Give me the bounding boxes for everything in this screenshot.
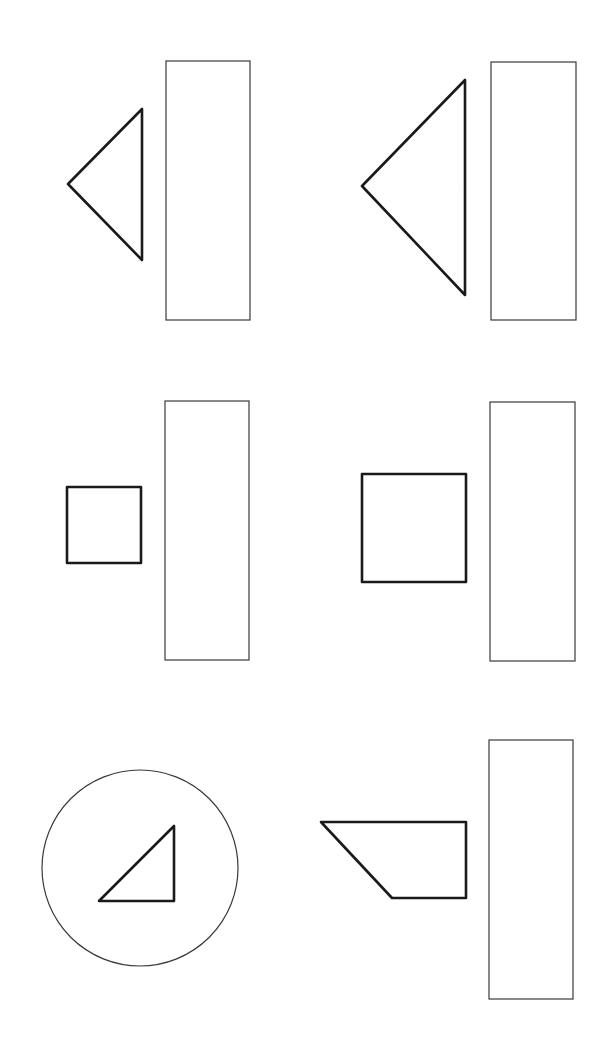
background [0,0,614,1042]
shapes-diagram [0,0,614,1042]
